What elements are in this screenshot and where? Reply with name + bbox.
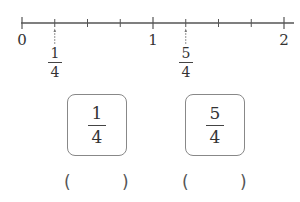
arrow-icon (185, 29, 188, 45)
answer-open-paren: ( (182, 174, 189, 191)
answer-close-paren: ) (240, 174, 247, 191)
numerator: 5 (210, 105, 221, 122)
denominator: 4 (92, 129, 103, 146)
answer-open-paren: ( (64, 174, 71, 191)
answer-close-paren: ) (122, 174, 129, 191)
fraction-bar (48, 62, 62, 63)
label-one: 1 (148, 33, 158, 48)
number-line (0, 0, 300, 60)
fraction-bar (179, 62, 193, 63)
fraction-five-quarters-label: 5 4 (179, 46, 193, 79)
numerator: 1 (51, 46, 60, 60)
fraction-one-quarter-label: 1 4 (48, 46, 62, 79)
label-zero: 0 (17, 33, 27, 48)
denominator: 4 (51, 65, 60, 79)
fraction: 1 4 (88, 105, 106, 146)
numerator: 1 (92, 105, 103, 122)
fraction-bar (88, 125, 106, 126)
fraction-bar (206, 125, 224, 126)
denominator: 4 (182, 65, 191, 79)
denominator: 4 (210, 129, 221, 146)
arrow-icon (54, 29, 57, 45)
numerator: 5 (182, 46, 191, 60)
label-two: 2 (279, 33, 289, 48)
fraction-card-one-quarter: 1 4 (67, 94, 127, 156)
fraction: 5 4 (206, 105, 224, 146)
fraction-card-five-quarters: 5 4 (185, 94, 245, 156)
